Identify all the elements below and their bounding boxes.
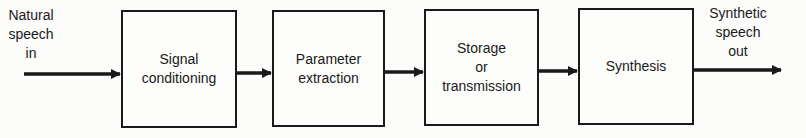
output-label: Synthetic speech out xyxy=(700,4,776,61)
block-label: Parameter extraction xyxy=(296,50,361,88)
synthesis-block: Synthesis xyxy=(578,8,694,125)
block-label: Synthesis xyxy=(606,57,667,76)
signal-conditioning-block: Signal conditioning xyxy=(121,10,237,128)
block-label: Signal conditioning xyxy=(142,50,217,88)
block-label: Storage or transmission xyxy=(442,39,521,96)
storage-or-transmission-block: Storage or transmission xyxy=(424,9,539,126)
speech-processing-block-diagram: Natural speech in Signal conditioning Pa… xyxy=(0,0,806,138)
input-label: Natural speech in xyxy=(2,6,60,63)
parameter-extraction-block: Parameter extraction xyxy=(272,10,385,127)
